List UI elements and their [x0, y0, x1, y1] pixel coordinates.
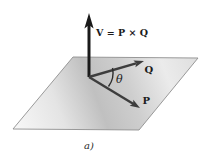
vector-v-label: V = P × Q	[95, 27, 148, 38]
vector-p-label: P	[143, 95, 151, 106]
vector-q-label: Q	[145, 64, 154, 75]
figure-cross-product-diagram: V = P × Q Q θ P a)	[0, 0, 213, 155]
theta-label: θ	[116, 73, 123, 86]
figure-caption: a)	[84, 140, 94, 151]
plane-surface	[13, 57, 198, 130]
diagram-canvas: V = P × Q Q θ P a)	[0, 0, 213, 155]
